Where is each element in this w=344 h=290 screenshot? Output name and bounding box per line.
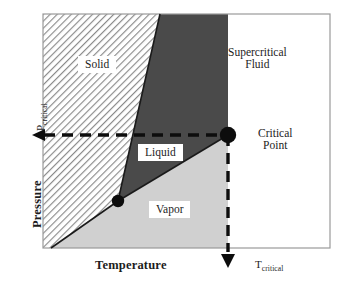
region-label-solid: Solid bbox=[78, 56, 116, 73]
p-critical-subscript: critical bbox=[40, 103, 49, 125]
p-critical-base: P bbox=[34, 125, 46, 131]
phase-diagram-figure: Solid Liquid Vapor Supercritical Fluid C… bbox=[0, 0, 344, 290]
critical-point-marker bbox=[220, 127, 236, 143]
t-critical-subscript: critical bbox=[262, 264, 284, 273]
critical-point-line-2: Point bbox=[258, 139, 293, 151]
critical-point-line-1: Critical bbox=[258, 127, 293, 139]
triple-point-marker bbox=[112, 195, 124, 207]
x-axis-title: Temperature bbox=[95, 259, 167, 272]
region-label-supercritical-fluid: Supercritical Fluid bbox=[228, 46, 287, 70]
region-label-vapor: Vapor bbox=[149, 201, 190, 218]
y-axis-title: Pressure bbox=[31, 180, 44, 228]
axis-tick-label-p-critical: Pcritical bbox=[35, 103, 47, 131]
axis-tick-label-t-critical: Tcritical bbox=[255, 259, 283, 271]
supercritical-line-2: Fluid bbox=[228, 58, 287, 70]
supercritical-line-1: Supercritical bbox=[228, 46, 287, 58]
region-label-liquid: Liquid bbox=[138, 144, 183, 161]
t-critical-arrowhead-icon bbox=[221, 254, 235, 268]
t-critical-base: T bbox=[255, 258, 262, 270]
annotation-critical-point: Critical Point bbox=[258, 127, 293, 151]
